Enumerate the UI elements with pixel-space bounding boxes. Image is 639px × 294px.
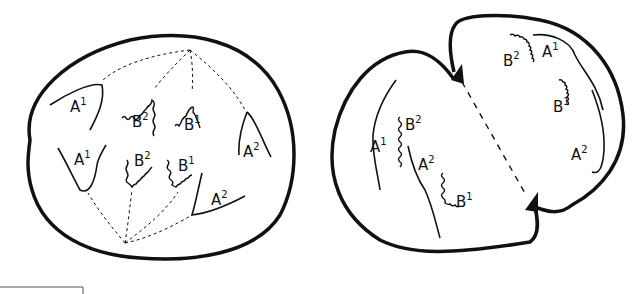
label-a1-lower: A1 [370, 136, 387, 156]
label-b2-top: B2 [132, 111, 149, 131]
label-a2-upper: A2 [571, 144, 588, 164]
label-a2-lower: A2 [418, 154, 435, 174]
label-a1-bottom: A1 [74, 149, 91, 169]
label-b1-top: B1 [184, 114, 201, 134]
label-b2-lower: B2 [405, 114, 422, 134]
chromosome-labels: A1B2B1A2A1B2B1A2B2A1B1A2B2A1A2B1 [70, 41, 588, 211]
label-b2-upper: B2 [503, 50, 520, 70]
right-cell [332, 15, 624, 251]
meiosis-diagram: A1B2B1A2A1B2B1A2B2A1B1A2B2A1A2B1 [0, 0, 639, 294]
cleavage-furrow [462, 82, 526, 195]
label-b1-lower: B1 [456, 191, 473, 211]
label-b1-upper: B1 [553, 96, 570, 116]
frame-fragment [0, 287, 83, 294]
label-a2-right: A2 [243, 141, 260, 161]
label-b1-bottom: B1 [178, 155, 195, 175]
label-b2-bottom: B2 [134, 150, 151, 170]
label-a1-top: A1 [70, 96, 87, 116]
label-a1-upper: A1 [542, 41, 559, 61]
spindle-fibers [88, 50, 246, 243]
cleavage-arrow-bottom [525, 192, 538, 212]
right-cell-membrane [332, 15, 624, 251]
